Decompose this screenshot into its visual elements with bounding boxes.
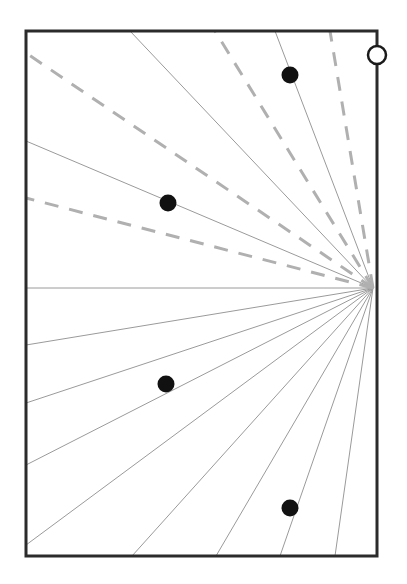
point-4[interactable] xyxy=(282,500,299,517)
ray-diagram-svg xyxy=(0,0,407,584)
dashed-ray-group xyxy=(26,31,373,288)
solid-ray-12 xyxy=(335,288,373,556)
point-3[interactable] xyxy=(158,376,175,393)
dashed-ray-2 xyxy=(26,198,373,288)
point-2[interactable] xyxy=(160,195,177,212)
solid-ray-5 xyxy=(26,288,373,345)
bounding-rectangle xyxy=(26,31,377,556)
solid-ray-group xyxy=(26,31,373,556)
solid-ray-1 xyxy=(130,31,373,288)
dashed-ray-1 xyxy=(26,53,373,288)
point-1[interactable] xyxy=(282,67,299,84)
figure-canvas xyxy=(0,0,407,584)
open-circle-node[interactable] xyxy=(368,46,386,64)
solid-ray-3 xyxy=(26,141,373,288)
solid-ray-8 xyxy=(26,288,373,545)
